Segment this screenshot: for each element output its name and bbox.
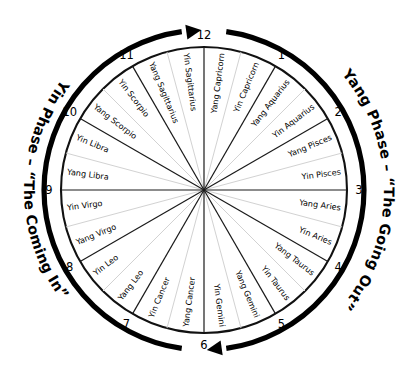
clock-svg-canvas: Yang CapricornYin CapricornYang Aquarius… <box>0 0 405 384</box>
clock-face-group <box>61 47 347 333</box>
hour-marker-8: 8 <box>66 260 73 274</box>
hour-marker-12: 12 <box>197 28 212 42</box>
hour-marker-6: 6 <box>200 338 207 352</box>
hour-marker-1: 1 <box>278 48 285 62</box>
hour-marker-7: 7 <box>123 317 130 331</box>
hour-marker-9: 9 <box>45 183 52 197</box>
organ-clock-diagram: Yang CapricornYin CapricornYang Aquarius… <box>0 0 405 384</box>
hour-marker-5: 5 <box>278 317 285 331</box>
hour-marker-10: 10 <box>62 105 77 119</box>
yang-phase-arrowhead-icon <box>207 340 223 355</box>
hour-marker-11: 11 <box>119 48 134 62</box>
hour-marker-3: 3 <box>355 183 362 197</box>
hour-marker-2: 2 <box>335 105 342 119</box>
hour-marker-4: 4 <box>335 260 342 274</box>
